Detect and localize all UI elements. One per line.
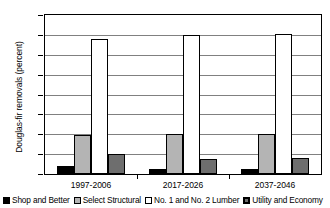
- legend-swatch-icon: [3, 197, 10, 204]
- legend-item: Shop and Better: [3, 195, 70, 205]
- legend-item: Utility and Economy: [243, 195, 322, 205]
- bar-chart: Douglas-fir removals (percent) 010203040…: [0, 0, 330, 208]
- legend-swatch-icon: [74, 197, 81, 204]
- legend-label: Shop and Better: [12, 195, 70, 205]
- bar: [108, 154, 125, 174]
- x-tick-2017-2026: 2017-2026: [143, 180, 223, 190]
- bar: [258, 134, 275, 174]
- legend-label: No. 1 and No. 2 Lumber: [154, 195, 239, 205]
- x-tick-mark: [229, 175, 230, 179]
- y-tick-mark: [38, 134, 43, 135]
- bar: [166, 134, 183, 174]
- y-tick-mark: [38, 75, 43, 76]
- bar-series-container: [45, 15, 321, 174]
- y-axis-title: Douglas-fir removals (percent): [14, 12, 24, 182]
- y-tick-mark: [38, 174, 43, 175]
- legend-label: Select Structural: [83, 195, 141, 205]
- y-tick-mark: [38, 35, 43, 36]
- bar: [183, 35, 200, 174]
- bar: [74, 135, 91, 174]
- legend: Shop and BetterSelect StructuralNo. 1 an…: [3, 195, 327, 205]
- x-tick-2037-2046: 2037-2046: [235, 180, 315, 190]
- y-tick-mark: [38, 154, 43, 155]
- bar: [200, 159, 217, 174]
- bar: [57, 166, 74, 174]
- bar-group: [137, 15, 229, 174]
- bar: [241, 169, 258, 174]
- bar: [292, 158, 309, 174]
- y-tick-mark: [38, 95, 43, 96]
- x-tick-1997-2006: 1997-2006: [51, 180, 131, 190]
- y-tick-mark: [38, 55, 43, 56]
- legend-label: Utility and Economy: [252, 195, 322, 205]
- y-tick-mark: [38, 15, 43, 16]
- y-tick-mark: [38, 114, 43, 115]
- bar-group: [45, 15, 137, 174]
- bar: [91, 39, 108, 174]
- x-tick-mark: [137, 175, 138, 179]
- bar-group: [229, 15, 321, 174]
- legend-item: No. 1 and No. 2 Lumber: [145, 195, 239, 205]
- bar: [149, 169, 166, 174]
- legend-item: Select Structural: [74, 195, 141, 205]
- legend-swatch-icon: [145, 197, 152, 204]
- legend-swatch-icon: [243, 197, 250, 204]
- bar: [275, 34, 292, 174]
